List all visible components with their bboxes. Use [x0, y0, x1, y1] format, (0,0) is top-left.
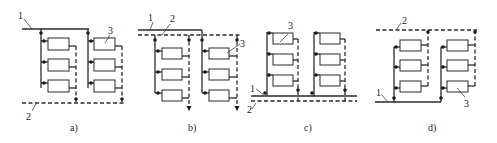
radiator	[209, 69, 229, 80]
radiator	[273, 33, 293, 44]
radiator	[320, 54, 340, 65]
panel-a: 1 2 3 a)	[18, 10, 125, 134]
label-return: 2	[402, 15, 407, 26]
label-radiator: 3	[108, 25, 113, 36]
radiator	[447, 81, 468, 92]
label-supply: 1	[148, 12, 153, 23]
radiator	[94, 80, 115, 92]
radiator	[273, 54, 293, 65]
panel-c: 1 2 3 c)	[247, 20, 357, 134]
radiator	[320, 75, 340, 86]
caption-a: a)	[70, 122, 78, 134]
radiator	[94, 38, 115, 50]
radiator	[447, 40, 468, 51]
label-return: 2	[26, 111, 31, 122]
caption-d: d)	[428, 122, 436, 134]
label-return: 2	[247, 104, 252, 115]
radiator	[209, 48, 229, 59]
caption-b: b)	[188, 122, 196, 134]
radiator	[400, 40, 421, 51]
radiator	[48, 80, 69, 92]
panel-b: 1 2 3 b)	[138, 12, 245, 134]
label-radiator: 3	[240, 38, 245, 49]
radiator	[162, 48, 182, 59]
radiator	[400, 81, 421, 92]
radiator	[447, 60, 468, 71]
radiator	[162, 90, 182, 101]
label-supply: 1	[250, 83, 255, 94]
radiator	[273, 75, 293, 86]
panel-d: 1 2 3 d)	[375, 15, 477, 134]
label-supply: 1	[18, 10, 23, 21]
radiator	[400, 60, 421, 71]
label-return: 2	[170, 13, 175, 24]
label-supply: 1	[376, 87, 381, 98]
radiator	[48, 59, 69, 71]
label-radiator: 3	[464, 98, 469, 109]
radiator	[48, 38, 69, 50]
heating-scheme-diagram: 1 2 3 a)	[0, 0, 497, 143]
label-radiator: 3	[288, 20, 293, 31]
radiator	[94, 59, 115, 71]
radiator	[162, 69, 182, 80]
radiator	[209, 90, 229, 101]
caption-c: c)	[304, 122, 312, 134]
radiator	[320, 33, 340, 44]
